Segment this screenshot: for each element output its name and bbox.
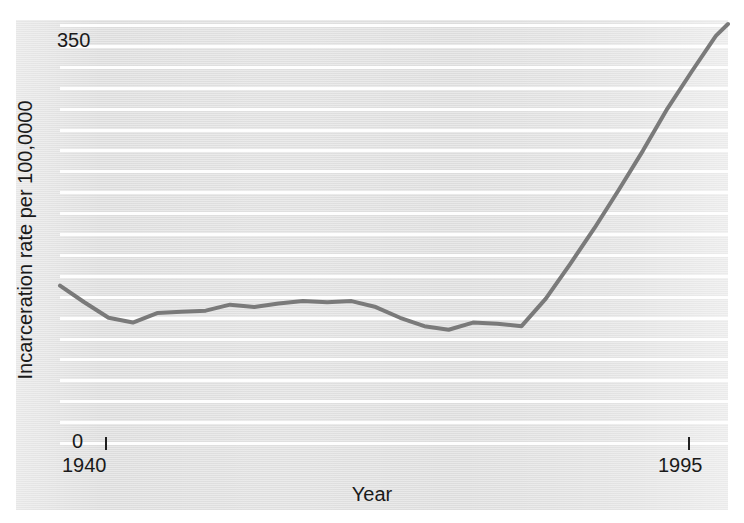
x-axis-tick-1940: [105, 437, 107, 450]
y-axis-title: Incarceration rate per 100,0000: [14, 100, 37, 379]
y-axis-min-label: 0: [72, 431, 83, 451]
data-series-line: [60, 24, 728, 442]
y-axis-title-wrapper: Incarceration rate per 100,0000: [10, 60, 40, 420]
x-axis-max-label: 1995: [658, 455, 703, 475]
gridline: [60, 442, 728, 445]
y-axis-max-label: 350: [57, 30, 90, 50]
chart-figure: 350 0 1940 1995 Incarceration rate per 1…: [0, 0, 744, 523]
x-axis-min-label: 1940: [62, 455, 107, 475]
incarceration-rate-line: [60, 24, 728, 330]
x-axis-tick-1995: [688, 437, 690, 450]
x-axis-title: Year: [0, 483, 744, 506]
plot-area: [60, 24, 728, 442]
